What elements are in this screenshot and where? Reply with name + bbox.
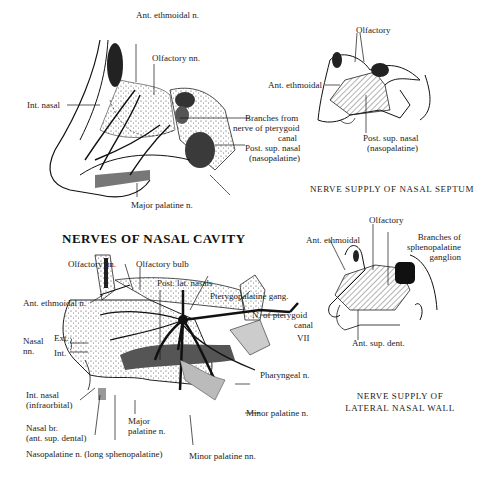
label-post-sup-nasal-1: Post. sup. nasal (363, 133, 419, 143)
septum-detail-drawing (50, 40, 235, 197)
label-major-palatine-2: palatine n. (128, 426, 166, 436)
label-olfactory-nn: Olfactory nn. (68, 259, 116, 269)
label-branches-2: sphenopalatine (400, 242, 461, 252)
label-major-palatine-1: Major (128, 416, 150, 426)
label-olfactory-nn: Olfactory nn. (152, 53, 200, 63)
page-title: NERVES OF NASAL CAVITY (62, 231, 246, 247)
label-minor-palatine-nn: Minor palatine nn. (189, 451, 256, 461)
label-n-pterygoid-canal-1: N. of pterygoid (252, 310, 307, 320)
label-post-sup-nasal-2: (nasopalatine) (249, 153, 300, 163)
label-ext: Ext. (54, 333, 69, 343)
septum-schematic-drawing (318, 52, 430, 124)
label-ant-ethmoidal-n: Ant. ethmoidal n. (136, 10, 199, 20)
label-nasal-br-2: (ant. sup. dental) (26, 433, 86, 443)
label-int-nasal: Int. nasal (27, 100, 60, 110)
label-branches-pterygoid-3: canal (233, 133, 297, 143)
label-branches-pterygoid-1: Branches from (245, 113, 298, 123)
caption-lateral-wall-2: LATERAL NASAL WALL (335, 402, 465, 414)
label-nasal-br-1: Nasal br. (26, 423, 58, 433)
label-int: Int. (54, 348, 66, 358)
label-ant-ethmoidal-n: Ant. ethmoidal n. (23, 298, 86, 308)
label-nasal-nn-2: nn. (23, 346, 34, 356)
label-olfactory: Olfactory (369, 215, 403, 225)
label-post-sup-nasal-2: (nasopalatine) (367, 143, 418, 153)
caption-lateral-wall-1: NERVE SUPPLY OF (335, 390, 465, 402)
label-post-sup-nasal-1: Post. sup. nasal (245, 143, 301, 153)
label-vii: VII (297, 333, 310, 343)
label-int-nasal-1: Int. nasal (26, 390, 59, 400)
label-ant-sup-dent: Ant. sup. dent. (352, 338, 405, 348)
label-int-nasal-2: (infraorbital) (26, 400, 72, 410)
label-ant-ethmoidal: Ant. ethmoidal (306, 235, 360, 245)
label-pharyngeal-n: Pharyngeal n. (260, 370, 310, 380)
label-olfactory: Olfactory (356, 25, 390, 35)
label-branches-1: Branches of (400, 232, 461, 242)
label-major-palatine-n: Major palatine n. (131, 200, 193, 210)
label-ant-ethmoidal: Ant. ethmoidal (268, 80, 322, 90)
label-branches-pterygoid-2: nerve of pterygoid (233, 123, 297, 133)
label-pterygopalatine-gang: Pterygopalatine gang. (210, 291, 288, 301)
label-n-pterygoid-canal-2: canal (252, 320, 313, 330)
label-olfactory-bulb: Olfactory bulb (136, 259, 189, 269)
caption-nasal-septum: NERVE SUPPLY OF NASAL SEPTUM (297, 183, 486, 195)
label-post-lat-nasals: Post. lat. nasals (157, 278, 213, 288)
label-branches-3: ganglion (400, 252, 461, 262)
label-nasopalatine-n: Nasopalatine n. (long sphenopalatine) (26, 449, 162, 459)
label-nasal-nn-1: Nasal (23, 336, 44, 346)
label-minor-palatine-n: Minor palatine n. (246, 408, 308, 418)
